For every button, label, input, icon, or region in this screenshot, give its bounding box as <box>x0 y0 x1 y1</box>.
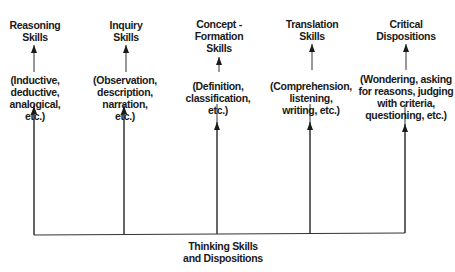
title-line: Translation <box>286 18 339 30</box>
title-line: Concept - <box>195 18 244 30</box>
branch-examples-translation: (Comprehension, listening, writing, etc.… <box>270 80 352 116</box>
example-line: writing, etc.) <box>270 104 352 116</box>
title-line: Skills <box>195 42 244 54</box>
branch-title-translation: Translation Skills <box>286 18 339 42</box>
example-line: classification, <box>186 92 251 104</box>
title-line: Formation <box>195 30 244 42</box>
branch-examples-critical-dispositions: (Wondering, asking for reasons, judging … <box>359 73 454 121</box>
example-line: with criteria, <box>359 97 454 109</box>
root-node-thinking-skills: Thinking Skills and Dispositions <box>183 240 263 264</box>
example-line: narration, <box>93 98 157 110</box>
example-line: (Definition, <box>186 80 251 92</box>
example-line: etc.) <box>186 104 251 116</box>
title-line: Reasoning <box>10 19 61 31</box>
example-line: deductive, <box>10 86 61 98</box>
title-line: Skills <box>286 30 339 42</box>
example-line: etc.) <box>10 110 61 122</box>
branch-title-reasoning: Reasoning Skills <box>10 19 61 43</box>
example-line: etc.) <box>93 110 157 122</box>
example-line: analogical, <box>10 98 61 110</box>
example-line: (Comprehension, <box>270 80 352 92</box>
title-line: Dispositions <box>376 30 435 42</box>
root-line: Thinking Skills <box>183 240 263 252</box>
title-line: Inquiry <box>110 19 143 31</box>
example-line: (Observation, <box>93 74 157 86</box>
example-line: for reasons, judging <box>359 85 454 97</box>
title-line: Critical <box>376 18 435 30</box>
branch-examples-concept-formation: (Definition, classification, etc.) <box>186 80 251 116</box>
root-line: and Dispositions <box>183 252 263 264</box>
example-line: questioning, etc.) <box>359 109 454 121</box>
title-line: Skills <box>10 31 61 43</box>
example-line: (Wondering, asking <box>359 73 454 85</box>
example-line: listening, <box>270 92 352 104</box>
branch-examples-reasoning: (Inductive, deductive, analogical, etc.) <box>10 74 61 122</box>
example-line: description, <box>93 86 157 98</box>
branch-title-concept-formation: Concept - Formation Skills <box>195 18 244 54</box>
title-line: Skills <box>110 31 143 43</box>
branch-examples-inquiry: (Observation, description, narration, et… <box>93 74 157 122</box>
branch-title-critical-dispositions: Critical Dispositions <box>376 18 435 42</box>
example-line: (Inductive, <box>10 74 61 86</box>
branch-title-inquiry: Inquiry Skills <box>110 19 143 43</box>
